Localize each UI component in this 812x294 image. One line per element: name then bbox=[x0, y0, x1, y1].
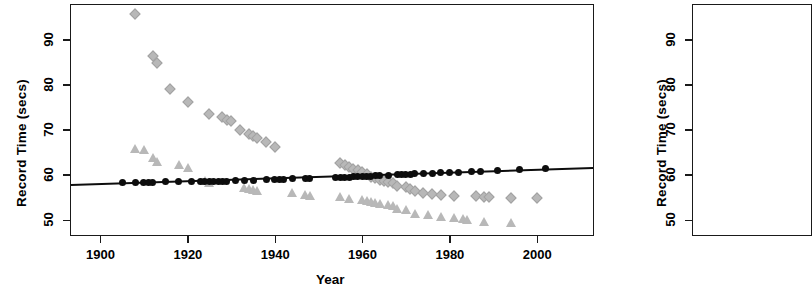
x-tick-label: 2000 bbox=[507, 247, 567, 262]
data-point-circle bbox=[420, 170, 427, 177]
y-tick-mark bbox=[63, 39, 70, 40]
data-point-triangle bbox=[252, 186, 262, 195]
plot-area-2 bbox=[692, 4, 812, 236]
y-tick-label: 60 bbox=[41, 158, 56, 192]
data-point-circle bbox=[119, 179, 126, 186]
y-tick-label: 70 bbox=[41, 113, 56, 147]
data-point-circle bbox=[429, 170, 436, 177]
data-point-triangle bbox=[287, 188, 297, 197]
data-point-circle bbox=[289, 175, 296, 182]
data-point-triangle bbox=[479, 217, 489, 226]
data-point-circle bbox=[306, 175, 313, 182]
data-point-triangle bbox=[410, 209, 420, 218]
data-point-circle bbox=[385, 172, 392, 179]
data-point-circle bbox=[232, 177, 239, 184]
data-point-diamond bbox=[505, 192, 516, 203]
data-point-circle bbox=[263, 176, 270, 183]
data-point-circle bbox=[280, 176, 287, 183]
chart-panel-1: Record Time (secs) Year 5060708090 19001… bbox=[0, 0, 640, 294]
data-point-circle bbox=[477, 168, 484, 175]
data-point-diamond bbox=[129, 9, 140, 20]
y-tick-label: 70 bbox=[663, 113, 678, 147]
y-tick-label: 90 bbox=[41, 23, 56, 57]
data-point-circle bbox=[446, 169, 453, 176]
data-point-diamond bbox=[182, 96, 193, 107]
y-tick-mark bbox=[63, 174, 70, 175]
data-point-circle bbox=[149, 179, 156, 186]
y-tick-mark bbox=[63, 129, 70, 130]
y-tick-mark bbox=[685, 129, 692, 130]
y-tick-mark bbox=[685, 220, 692, 221]
data-point-triangle bbox=[436, 212, 446, 221]
data-point-triangle bbox=[423, 210, 433, 219]
data-point-circle bbox=[241, 177, 248, 184]
data-point-triangle bbox=[305, 191, 315, 200]
y-tick-mark bbox=[685, 84, 692, 85]
x-tick-label: 1940 bbox=[245, 247, 305, 262]
x-tick-label: 1920 bbox=[158, 247, 218, 262]
data-point-triangle bbox=[183, 163, 193, 172]
y-tick-mark bbox=[63, 220, 70, 221]
y-tick-label: 60 bbox=[663, 158, 678, 192]
y-tick-label: 80 bbox=[41, 68, 56, 102]
data-point-diamond bbox=[435, 189, 446, 200]
data-point-circle bbox=[516, 166, 523, 173]
data-point-diamond bbox=[204, 109, 215, 120]
chart-panel-2: Record Time (secs) 5060708090 bbox=[640, 0, 734, 294]
y-tick-mark bbox=[685, 174, 692, 175]
data-point-circle bbox=[494, 167, 501, 174]
plot-area-1 bbox=[70, 4, 594, 236]
y-tick-mark bbox=[685, 39, 692, 40]
y-tick-label: 80 bbox=[663, 68, 678, 102]
data-point-diamond bbox=[164, 84, 175, 95]
data-point-circle bbox=[250, 177, 257, 184]
data-point-triangle bbox=[152, 157, 162, 166]
data-point-circle bbox=[542, 165, 549, 172]
data-points-layer-1 bbox=[71, 5, 593, 235]
data-point-circle bbox=[175, 178, 182, 185]
x-tick-mark bbox=[275, 236, 276, 243]
x-tick-label: 1960 bbox=[333, 247, 393, 262]
data-point-triangle bbox=[462, 215, 472, 224]
x-tick-mark bbox=[449, 236, 450, 243]
data-point-triangle bbox=[344, 194, 354, 203]
y-tick-mark bbox=[63, 84, 70, 85]
data-point-circle bbox=[468, 168, 475, 175]
y-tick-label: 50 bbox=[663, 203, 678, 237]
data-point-triangle bbox=[506, 218, 516, 227]
y-tick-label: 90 bbox=[663, 23, 678, 57]
y-axis-title: Record Time (secs) bbox=[14, 79, 29, 207]
data-point-circle bbox=[132, 179, 139, 186]
data-point-circle bbox=[223, 178, 230, 185]
x-tick-mark bbox=[362, 236, 363, 243]
x-tick-mark bbox=[100, 236, 101, 243]
data-point-circle bbox=[411, 170, 418, 177]
x-tick-label: 1980 bbox=[420, 247, 480, 262]
x-tick-label: 1900 bbox=[71, 247, 131, 262]
data-point-circle bbox=[162, 178, 169, 185]
data-point-circle bbox=[437, 169, 444, 176]
y-tick-label: 50 bbox=[41, 203, 56, 237]
data-point-diamond bbox=[269, 142, 280, 153]
x-tick-mark bbox=[187, 236, 188, 243]
data-point-diamond bbox=[448, 190, 459, 201]
x-tick-mark bbox=[537, 236, 538, 243]
x-axis-title: Year bbox=[316, 272, 345, 287]
data-point-circle bbox=[188, 178, 195, 185]
data-point-circle bbox=[455, 169, 462, 176]
data-point-diamond bbox=[531, 193, 542, 204]
